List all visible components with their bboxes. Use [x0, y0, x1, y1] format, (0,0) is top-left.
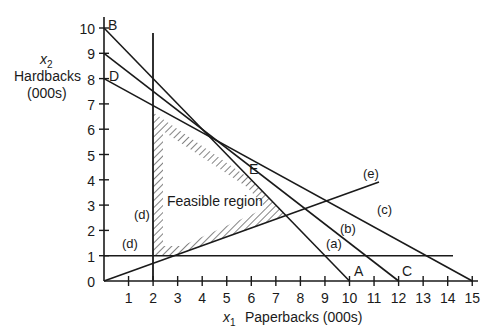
y-tick-label: 0 — [87, 274, 95, 290]
feasible-region — [153, 112, 286, 255]
point-b-label: B — [108, 17, 117, 33]
y-tick-label: 2 — [87, 223, 95, 239]
x-tick-label: 7 — [272, 290, 280, 306]
x-axis-var: x1 — [222, 309, 236, 328]
x-tick-label: 3 — [174, 290, 182, 306]
point-c-label: C — [402, 263, 412, 279]
x-tick-label: 15 — [464, 290, 480, 306]
lp-graph: 123456789101112131415 012345678910 B D A… — [0, 0, 494, 336]
x-tick-label: 1 — [125, 290, 133, 306]
point-e-label: E — [249, 161, 258, 177]
line-d-horizontal-label: (d) — [122, 236, 138, 251]
line-b-label: (b) — [340, 221, 356, 236]
x-tick-label: 11 — [367, 290, 382, 306]
y-tick-label: 5 — [87, 148, 95, 164]
point-a-label: A — [354, 263, 364, 279]
line-a-label: (a) — [326, 236, 342, 251]
x-tick-label: 4 — [198, 290, 206, 306]
x-tick-label: 9 — [321, 290, 329, 306]
x-tick-label: 12 — [391, 290, 407, 306]
y-tick-label: 8 — [87, 72, 95, 88]
y-tick-label: 4 — [87, 173, 95, 189]
x-axis-title: Paperbacks (000s) — [245, 309, 363, 325]
y-tick-label: 9 — [87, 46, 95, 62]
line-c-label: (c) — [377, 202, 392, 217]
feasible-region-label: Feasible region — [167, 193, 263, 209]
x-tick-label: 6 — [247, 290, 255, 306]
x-tick-label: 5 — [223, 290, 231, 306]
y-tick-label: 10 — [79, 21, 95, 37]
y-tick-label: 3 — [87, 198, 95, 214]
x-tick-label: 2 — [149, 290, 157, 306]
y-axis-title-line2: (000s) — [27, 85, 67, 101]
x-tick-label: 8 — [297, 290, 305, 306]
line-d-vertical-label: (d) — [134, 207, 150, 222]
y-tick-label: 1 — [87, 249, 95, 265]
x-tick-label: 14 — [440, 290, 456, 306]
line-a — [104, 28, 350, 281]
x-tick-label: 13 — [415, 290, 431, 306]
point-d-label: D — [109, 68, 119, 84]
y-tick-label: 7 — [87, 97, 95, 113]
y-axis-title-line1: Hardbacks — [14, 68, 81, 84]
y-tick-label: 6 — [87, 122, 95, 138]
x-tick-label: 10 — [342, 290, 358, 306]
line-e-label: (e) — [363, 166, 379, 181]
